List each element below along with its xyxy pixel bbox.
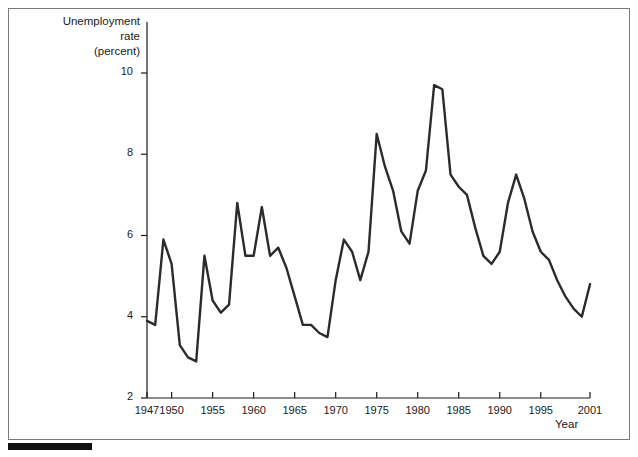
x-axis-tick-label: 1990 xyxy=(483,404,517,416)
x-axis-tick-label: 1985 xyxy=(442,404,476,416)
y-axis-tick-label: 8 xyxy=(109,146,133,158)
y-axis-tick-label: 6 xyxy=(109,228,133,240)
line-chart xyxy=(0,0,638,457)
y-axis-tick-label: 10 xyxy=(109,65,133,77)
x-axis-tick-label: 1950 xyxy=(155,404,189,416)
x-axis-tick-label: 1980 xyxy=(401,404,435,416)
x-axis-ticks xyxy=(147,392,590,398)
x-axis-tick-label: 1995 xyxy=(524,404,558,416)
x-axis-tick-label: 1965 xyxy=(278,404,312,416)
x-axis-tick-label: 1960 xyxy=(237,404,271,416)
bottom-rule-bar xyxy=(8,443,92,450)
axes xyxy=(147,22,590,398)
y-axis-tick-label: 2 xyxy=(109,390,133,402)
chart-page: Unemployment rate (percent) Year 246810 … xyxy=(0,0,638,457)
data-series xyxy=(147,85,590,361)
series-line xyxy=(147,85,590,361)
y-axis-ticks xyxy=(141,73,147,398)
x-axis-tick-label: 1970 xyxy=(319,404,353,416)
x-axis-tick-label: 2001 xyxy=(573,404,607,416)
y-axis-tick-label: 4 xyxy=(109,309,133,321)
x-axis-tick-label: 1975 xyxy=(360,404,394,416)
x-axis-tick-label: 1955 xyxy=(196,404,230,416)
